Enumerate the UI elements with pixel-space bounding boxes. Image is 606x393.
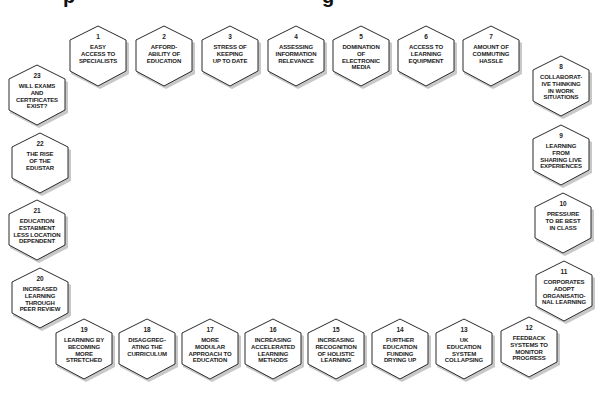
hexagon-number: 19 xyxy=(80,326,87,334)
hexagon-number: 11 xyxy=(561,268,568,276)
hexagon-number: 18 xyxy=(143,326,150,334)
hexagon-node-12: 12 FEEDBACK SYSTEMS TO MONITOR PROGRESS xyxy=(500,316,558,378)
hexagon-node-21: 21 EDUCATION ESTABMENT LESS LOCATION DEP… xyxy=(8,199,66,261)
hexagon-label: AFFORD- ABILITY OF EDUCATION xyxy=(136,44,192,64)
hexagon-content: 18 DISAGGREG- ATING THE CURRICULUM xyxy=(120,326,174,374)
hexagon-content: 15 INCREASING RECOGNITION OF HOLISTIC LE… xyxy=(309,326,363,374)
hexagon-node-14: 14 FURTHER EDUCATION FUNDING DRYING UP xyxy=(371,318,429,380)
hexagon-label: CORPORATES ADOPT ORGANISATIO- NAL LEARNI… xyxy=(536,279,592,306)
hexagon-label: UK EDUCATION SYSTEM COLLAPSING xyxy=(436,337,492,364)
hexagon-content: 21 EDUCATION ESTABMENT LESS LOCATION DEP… xyxy=(10,207,64,255)
hexagon-label: AMOUNT OF COMMUTING HASSLE xyxy=(463,44,519,64)
hexagon-number: 12 xyxy=(525,324,532,332)
hexagon-label: DOMINATION OF ELECTRONIC MEDIA xyxy=(333,44,389,71)
hexagon-node-5: 5 DOMINATION OF ELECTRONIC MEDIA xyxy=(332,25,390,87)
hexagon-number: 20 xyxy=(36,275,43,283)
hexagon-number: 13 xyxy=(460,326,467,334)
hexagon-label: LEARNING FROM SHARING LIVE EXPERIENCES xyxy=(533,143,589,170)
hexagon-content: 19 LEARNING BY BECOMING MORE STRETCHED xyxy=(57,326,111,374)
hexagon-label: COLLABORAT- IVE THINKING IN WORK SITUATI… xyxy=(533,74,589,101)
hexagon-label: PRESSURE TO BE BEST IN CLASS xyxy=(535,211,591,231)
hexagon-label: INCREASING ACCELERATED LEARNING METHODS xyxy=(245,337,301,364)
hexagon-label: LEARNING BY BECOMING MORE STRETCHED xyxy=(56,337,112,364)
hexagon-content: 6 ACCESS TO LEARNING EQUIPMENT xyxy=(399,33,453,81)
hexagon-number: 14 xyxy=(396,326,403,334)
hexagon-content: 22 THE RISE OF THE EDUSTAR xyxy=(13,140,67,188)
hexagon-label: ASSESSING INFORMATION RELEVANCE xyxy=(268,44,324,64)
hexagon-number: 22 xyxy=(36,140,43,148)
hexagon-content: 13 UK EDUCATION SYSTEM COLLAPSING xyxy=(437,326,491,374)
hexagon-number: 23 xyxy=(33,72,40,80)
title-fragment-2: g xyxy=(322,0,334,6)
hexagon-content: 7 AMOUNT OF COMMUTING HASSLE xyxy=(464,33,518,81)
hexagon-label: EASY ACCESS TO SPECIALISTS xyxy=(70,44,126,64)
hexagon-content: 8 COLLABORAT- IVE THINKING IN WORK SITUA… xyxy=(534,63,588,111)
hexagon-content: 4 ASSESSING INFORMATION RELEVANCE xyxy=(269,33,323,81)
hexagon-number: 2 xyxy=(162,33,166,41)
hexagon-number: 3 xyxy=(228,33,232,41)
hexagon-node-23: 23 WILL EXAMS AND CERTIFICATES EXIST? xyxy=(8,64,66,126)
hexagon-content: 11 CORPORATES ADOPT ORGANISATIO- NAL LEA… xyxy=(537,268,591,316)
hexagon-content: 3 STRESS OF KEEPING UP TO DATE xyxy=(203,33,257,81)
title-fragment-1: p xyxy=(63,0,75,6)
hexagon-content: 20 INCREASED LEARNING THROUGH PEER REVIE… xyxy=(13,275,67,323)
hexagon-node-8: 8 COLLABORAT- IVE THINKING IN WORK SITUA… xyxy=(532,55,590,117)
hexagon-node-17: 17 MORE MODULAR APPROACH TO EDUCATION xyxy=(181,318,239,380)
hexagon-number: 10 xyxy=(559,200,566,208)
hexagon-node-18: 18 DISAGGREG- ATING THE CURRICULUM xyxy=(118,318,176,380)
hexagon-number: 7 xyxy=(489,33,493,41)
hexagon-number: 16 xyxy=(269,326,276,334)
hexagon-number: 9 xyxy=(559,132,563,140)
hexagon-node-16: 16 INCREASING ACCELERATED LEARNING METHO… xyxy=(244,318,302,380)
hexagon-content: 23 WILL EXAMS AND CERTIFICATES EXIST? xyxy=(10,72,64,120)
hexagon-number: 5 xyxy=(359,33,363,41)
hexagon-label: ACCESS TO LEARNING EQUIPMENT xyxy=(398,44,454,64)
hexagon-label: FEEDBACK SYSTEMS TO MONITOR PROGRESS xyxy=(501,335,557,362)
issues-hexagon-diagram: p g 1 EASY ACCESS TO SPECIALISTS 2 AFFOR… xyxy=(0,0,606,393)
hexagon-number: 6 xyxy=(424,33,428,41)
hexagon-node-9: 9 LEARNING FROM SHARING LIVE EXPERIENCES xyxy=(532,124,590,186)
hexagon-node-7: 7 AMOUNT OF COMMUTING HASSLE xyxy=(462,25,520,87)
hexagon-number: 15 xyxy=(332,326,339,334)
hexagon-content: 2 AFFORD- ABILITY OF EDUCATION xyxy=(137,33,191,81)
hexagon-node-11: 11 CORPORATES ADOPT ORGANISATIO- NAL LEA… xyxy=(535,260,593,322)
hexagon-content: 9 LEARNING FROM SHARING LIVE EXPERIENCES xyxy=(534,132,588,180)
hexagon-node-6: 6 ACCESS TO LEARNING EQUIPMENT xyxy=(397,25,455,87)
hexagon-content: 10 PRESSURE TO BE BEST IN CLASS xyxy=(536,200,590,248)
hexagon-label: FURTHER EDUCATION FUNDING DRYING UP xyxy=(372,337,428,364)
hexagon-label: INCREASING RECOGNITION OF HOLISTIC LEARN… xyxy=(308,337,364,364)
hexagon-label: STRESS OF KEEPING UP TO DATE xyxy=(202,44,258,64)
hexagon-node-15: 15 INCREASING RECOGNITION OF HOLISTIC LE… xyxy=(307,318,365,380)
hexagon-label: DISAGGREG- ATING THE CURRICULUM xyxy=(119,337,175,357)
hexagon-number: 17 xyxy=(206,326,213,334)
hexagon-node-20: 20 INCREASED LEARNING THROUGH PEER REVIE… xyxy=(11,267,69,329)
hexagon-node-1: 1 EASY ACCESS TO SPECIALISTS xyxy=(69,25,127,87)
hexagon-label: INCREASED LEARNING THROUGH PEER REVIEW xyxy=(12,286,68,313)
hexagon-label: THE RISE OF THE EDUSTAR xyxy=(12,151,68,171)
hexagon-content: 14 FURTHER EDUCATION FUNDING DRYING UP xyxy=(373,326,427,374)
hexagon-number: 1 xyxy=(96,33,100,41)
hexagon-node-10: 10 PRESSURE TO BE BEST IN CLASS xyxy=(534,192,592,254)
hexagon-node-22: 22 THE RISE OF THE EDUSTAR xyxy=(11,132,69,194)
hexagon-number: 21 xyxy=(33,207,40,215)
hexagon-node-4: 4 ASSESSING INFORMATION RELEVANCE xyxy=(267,25,325,87)
hexagon-label: MORE MODULAR APPROACH TO EDUCATION xyxy=(182,337,238,364)
hexagon-content: 16 INCREASING ACCELERATED LEARNING METHO… xyxy=(246,326,300,374)
hexagon-node-13: 13 UK EDUCATION SYSTEM COLLAPSING xyxy=(435,318,493,380)
hexagon-node-3: 3 STRESS OF KEEPING UP TO DATE xyxy=(201,25,259,87)
hexagon-label: WILL EXAMS AND CERTIFICATES EXIST? xyxy=(9,83,65,110)
hexagon-content: 17 MORE MODULAR APPROACH TO EDUCATION xyxy=(183,326,237,374)
hexagon-content: 12 FEEDBACK SYSTEMS TO MONITOR PROGRESS xyxy=(502,324,556,372)
hexagon-content: 5 DOMINATION OF ELECTRONIC MEDIA xyxy=(334,33,388,81)
hexagon-node-2: 2 AFFORD- ABILITY OF EDUCATION xyxy=(135,25,193,87)
hexagon-label: EDUCATION ESTABMENT LESS LOCATION DEPEND… xyxy=(9,218,65,245)
hexagon-number: 8 xyxy=(559,63,563,71)
hexagon-content: 1 EASY ACCESS TO SPECIALISTS xyxy=(71,33,125,81)
hexagon-number: 4 xyxy=(294,33,298,41)
